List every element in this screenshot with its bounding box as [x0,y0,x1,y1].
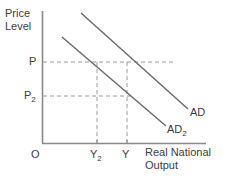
price-tick-p2-subscript: 2 [31,95,35,104]
origin-label: O [31,148,40,160]
output-tick-y2-subscript: 2 [97,154,101,163]
x-axis-label: Real National Output [145,146,211,172]
price-tick-label-p2: P2 [24,89,36,104]
y-axis-label-line2: Level [5,20,31,32]
x-axis-label-line1: Real National [145,146,211,158]
y-axis-label: Price Level [5,7,31,33]
ad2-curve [62,37,166,126]
ad-diagram: Price Level Real National Output P P2 O … [0,0,228,182]
output-tick-label-y2: Y2 [90,148,102,163]
ad-curve [81,13,188,109]
ad2-curve-label: AD2 [167,123,187,138]
ad-curve-label-text: AD [190,106,205,118]
ad-curve-label: AD [190,106,205,118]
price-tick-p-text: P [29,55,36,67]
output-tick-label-y: Y [122,148,129,160]
ad2-curve-label-subscript: 2 [182,129,186,138]
y-axis-label-line1: Price [5,7,30,19]
output-tick-y-text: Y [122,148,129,160]
x-axis-label-line2: Output [145,159,178,171]
origin-label-text: O [31,148,40,160]
ad2-curve-label-text: AD [167,123,182,135]
price-tick-label-p: P [29,55,36,67]
